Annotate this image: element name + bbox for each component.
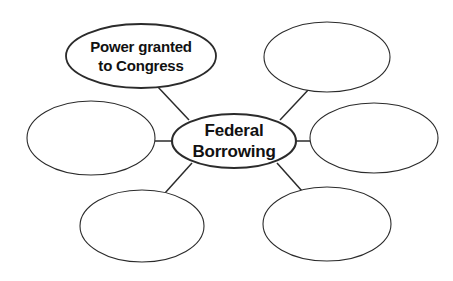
node-center-label-line1: Federal xyxy=(204,121,263,140)
connector-center-to-top-left xyxy=(157,86,189,120)
connector-center-to-top-right xyxy=(280,88,310,120)
node-top-left-label-line1: Power granted xyxy=(90,38,192,55)
node-bottom-left[interactable] xyxy=(80,190,204,262)
node-center-label-line2: Borrowing xyxy=(192,142,275,161)
node-bottom-left-oval[interactable] xyxy=(80,190,204,262)
node-bottom-right[interactable] xyxy=(263,187,391,261)
node-top-right-oval[interactable] xyxy=(264,22,390,92)
node-layer: Power grantedto CongressFederalBorrowing xyxy=(27,22,438,262)
node-right[interactable] xyxy=(310,103,438,173)
node-center[interactable]: FederalBorrowing xyxy=(172,114,296,168)
connector-center-to-bottom-right xyxy=(277,163,302,191)
node-bottom-right-oval[interactable] xyxy=(263,187,391,261)
node-left[interactable] xyxy=(27,101,155,175)
diagram-canvas: Power grantedto CongressFederalBorrowing xyxy=(0,0,453,281)
node-right-oval[interactable] xyxy=(310,103,438,173)
connector-center-to-bottom-left xyxy=(165,163,192,193)
node-top-left-label-line2: to Congress xyxy=(98,57,183,74)
concept-web-diagram: Power grantedto CongressFederalBorrowing xyxy=(0,0,453,281)
node-top-right[interactable] xyxy=(264,22,390,92)
node-left-oval[interactable] xyxy=(27,101,155,175)
node-top-left[interactable]: Power grantedto Congress xyxy=(66,24,216,88)
